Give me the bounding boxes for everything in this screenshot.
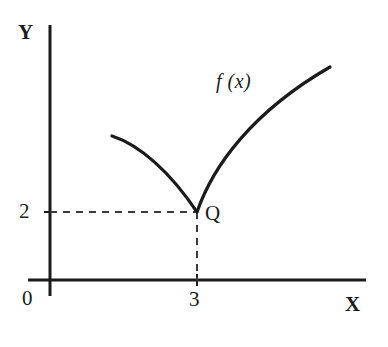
- x-axis-label: X: [345, 294, 360, 315]
- y-tick-label-2: 2: [19, 201, 30, 222]
- x-tick-label-3: 3: [189, 289, 200, 310]
- origin-label: 0: [22, 288, 33, 309]
- y-axis-label: Y: [18, 22, 33, 43]
- curve-label-fx: f (x): [216, 71, 251, 91]
- function-graph-figure: Y X 0 2 3 Q f (x): [0, 0, 388, 347]
- point-label-q: Q: [205, 203, 220, 224]
- curve-left-branch: [112, 136, 197, 212]
